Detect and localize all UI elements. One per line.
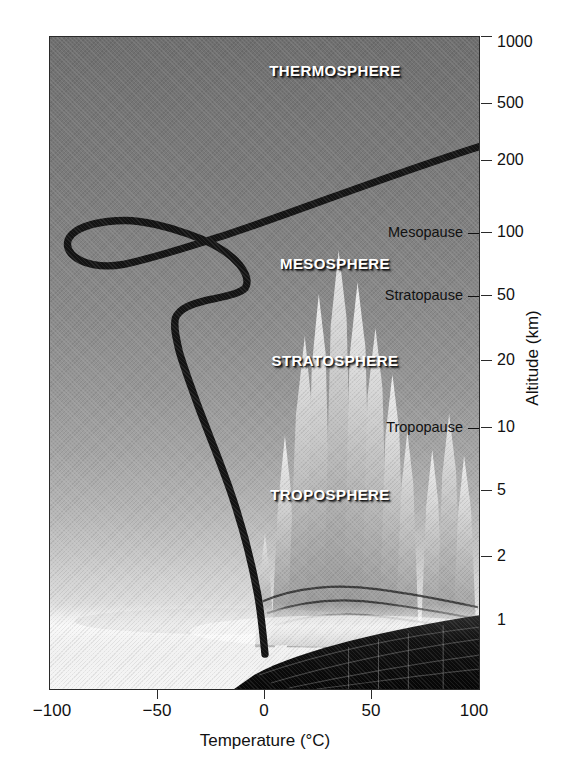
y-tick-label-1: 1 — [497, 611, 506, 629]
y-tick-label-50: 50 — [497, 286, 515, 304]
boundary-dash-mesopause — [468, 233, 479, 234]
x-tick-label-100: 100 — [460, 701, 488, 721]
y-tick-mark — [481, 232, 492, 233]
y-tick-label-20: 20 — [497, 351, 515, 369]
plot-area — [49, 36, 480, 690]
y-tick-label-10: 10 — [497, 418, 515, 436]
layer-label-mesosphere: MESOSPHERE — [280, 255, 390, 272]
boundary-dash-stratopause — [468, 296, 479, 297]
y-tick-mark — [481, 160, 492, 161]
y-axis-title: Altitude (km) — [523, 310, 543, 405]
boundary-label-tropopause: Tropopause — [386, 419, 479, 435]
y-tick-mark — [481, 295, 492, 296]
x-tick-label-minus100: −100 — [33, 701, 71, 721]
y-tick-label-200: 200 — [497, 151, 524, 169]
boundary-label-stratopause: Stratopause — [385, 287, 479, 303]
boundary-dash-tropopause — [468, 428, 479, 429]
y-tick-mark — [481, 360, 492, 361]
x-tick-label-zero: 0 — [259, 701, 268, 721]
x-tick-label-minus50: −50 — [143, 701, 172, 721]
y-tick-label-100: 100 — [497, 223, 524, 241]
y-tick-label-2: 2 — [497, 547, 506, 565]
y-tick-mark — [481, 556, 492, 557]
x-tick-mark — [371, 690, 372, 699]
boundary-label-mesopause-text: Mesopause — [388, 224, 463, 240]
temperature-curve — [50, 37, 479, 689]
boundary-label-stratopause-text: Stratopause — [385, 287, 463, 303]
atmosphere-temperature-profile-figure: THERMOSPHERE MESOSPHERE STRATOSPHERE TRO… — [0, 0, 584, 768]
y-tick-mark — [481, 427, 492, 428]
y-tick-mark — [481, 103, 492, 104]
y-tick-label-500: 500 — [497, 94, 524, 112]
x-tick-mark — [157, 690, 158, 699]
x-tick-label-50: 50 — [362, 701, 381, 721]
boundary-label-tropopause-text: Tropopause — [386, 419, 463, 435]
boundary-label-mesopause: Mesopause — [388, 224, 479, 240]
layer-label-thermosphere: THERMOSPHERE — [269, 62, 400, 79]
y-tick-label-5: 5 — [497, 481, 506, 499]
layer-label-stratosphere: STRATOSPHERE — [272, 352, 399, 369]
y-tick-mark — [481, 36, 492, 37]
x-axis-title: Temperature (°C) — [200, 731, 331, 751]
y-tick-label-1000: 1000 — [497, 33, 533, 51]
layer-label-troposphere: TROPOSPHERE — [270, 486, 389, 503]
y-tick-mark — [481, 490, 492, 491]
x-tick-mark — [264, 690, 265, 699]
